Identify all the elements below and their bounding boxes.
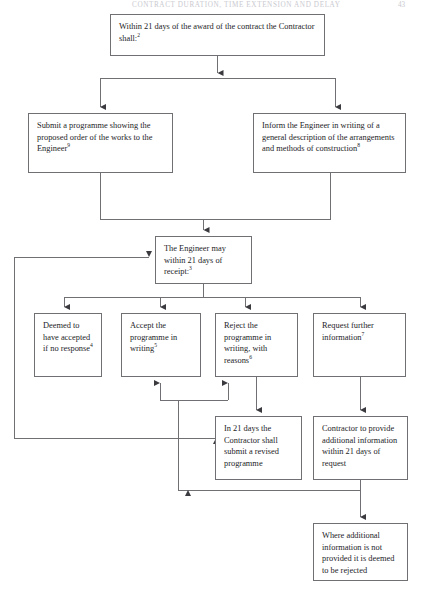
node-text: Reject the programme in writing, with re…	[224, 321, 271, 365]
node-superscript: 2	[137, 32, 140, 38]
node-request-further-information: Request further information7	[313, 313, 406, 377]
node-text: Within 21 days of the award of the contr…	[119, 22, 314, 43]
flowchart-page: CONTRACT DURATION, TIME EXTENSION AND DE…	[0, 0, 426, 593]
node-superscript: 7	[362, 331, 365, 337]
node-submit-revised-programme: In 21 days the Contractor shall submit a…	[215, 416, 302, 480]
node-submit-programme: Submit a programme showing the proposed …	[28, 113, 173, 173]
node-deemed-to-have-accepted: Deemed to have accepted if no response4	[34, 313, 102, 377]
node-superscript: 6	[249, 354, 252, 360]
edge-submit-to-engineer	[100, 173, 204, 230]
node-within-21-days-of-award: Within 21 days of the award of the contr…	[110, 14, 325, 56]
node-contractor-provide-additional-information: Contractor to provide additional informa…	[313, 416, 408, 480]
node-inform-engineer: Inform the Engineer in writing of a gene…	[253, 113, 406, 173]
node-accept-the-programme: Accept the programme in writing5	[121, 313, 201, 377]
node-superscript: 8	[357, 142, 360, 148]
node-superscript: 4	[90, 342, 93, 348]
node-superscript: 3	[189, 265, 192, 271]
node-superscript: 5	[154, 342, 157, 348]
node-text: In 21 days the Contractor shall submit a…	[224, 424, 279, 468]
node-text: Inform the Engineer in writing of a gene…	[262, 121, 395, 153]
node-text: Deemed to have accepted if no response	[43, 321, 90, 353]
node-text: Request further information	[322, 321, 374, 342]
flowchart-connectors	[0, 0, 426, 593]
node-reject-the-programme: Reject the programme in writing, with re…	[215, 313, 298, 377]
node-text: Submit a programme showing the proposed …	[37, 121, 152, 153]
node-superscript: 9	[67, 142, 70, 148]
edge-revised-to-accept-loop	[160, 383, 178, 490]
node-text: The Engineer may within 21 days of recei…	[164, 244, 226, 276]
edge-inform-to-engineer	[204, 173, 331, 219]
node-deemed-to-be-rejected: Where additional information is not prov…	[313, 523, 408, 581]
node-engineer-may-within-21-days: The Engineer may within 21 days of recei…	[155, 236, 252, 284]
node-text: Where additional information is not prov…	[322, 531, 394, 575]
node-text: Contractor to provide additional informa…	[322, 424, 397, 468]
edge-provide-to-reject-loop	[178, 480, 360, 490]
